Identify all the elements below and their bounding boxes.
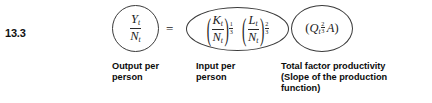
- close-paren-icon: ): [334, 21, 338, 35]
- input-per-person-expression: ( Kt Nt ) 1 3 ( Lt Nt ) 2 3: [206, 14, 269, 45]
- fraction-y-over-n: Yt Nt: [129, 13, 142, 44]
- variable-k: K: [213, 13, 221, 27]
- caption-input-per-person: Input per person: [196, 61, 274, 83]
- total-factor-productivity-oval: (Qt23A): [291, 5, 353, 52]
- variable-n-subscript: t: [256, 36, 258, 45]
- output-per-person-oval: Yt Nt: [112, 5, 159, 52]
- fraction-denominator: Nt: [247, 30, 260, 45]
- capital-per-person-factor: ( Kt Nt ) 1 3: [206, 14, 233, 45]
- variable-n: N: [213, 30, 221, 44]
- tfp-expression: (Qt23A): [305, 22, 338, 36]
- output-per-person-expression: Yt Nt: [129, 13, 142, 44]
- exponent-denominator: 3: [229, 29, 233, 35]
- variable-l: L: [249, 13, 256, 27]
- input-per-person-oval: ( Kt Nt ) 1 3 ( Lt Nt ) 2 3: [186, 7, 289, 51]
- exponent-two-thirds: 2 3: [265, 21, 269, 35]
- fraction-denominator: Nt: [212, 30, 225, 45]
- variable-l-subscript: t: [256, 19, 258, 28]
- exponent-denominator: 3: [265, 29, 269, 35]
- exponent-two-thirds: 23: [321, 21, 325, 35]
- variable-n: N: [130, 29, 138, 43]
- variable-n-subscript: t: [139, 35, 141, 44]
- exponent-one-third: 1 3: [229, 21, 233, 35]
- variable-n: N: [248, 30, 256, 44]
- labor-per-person-factor: ( Lt Nt ) 2 3: [242, 14, 269, 45]
- fraction-numerator: Lt: [248, 14, 259, 30]
- fraction-k-over-n: Kt Nt: [212, 14, 225, 45]
- fraction-numerator: Yt: [130, 13, 141, 29]
- exponent-denominator: 3: [321, 28, 325, 34]
- variable-n-subscript: t: [221, 36, 223, 45]
- variable-k-subscript: t: [221, 19, 223, 28]
- caption-total-factor-productivity: Total factor productivity (Slope of the …: [281, 61, 431, 95]
- open-paren-icon: (: [242, 14, 247, 45]
- fraction-l-over-n: Lt Nt: [247, 14, 260, 45]
- open-paren-icon: (: [206, 14, 211, 45]
- fraction-denominator: Nt: [129, 29, 142, 44]
- variable-y: Y: [131, 12, 138, 26]
- caption-output-per-person: Output per person: [112, 61, 192, 83]
- variable-y-subscript: t: [138, 18, 140, 27]
- equals-sign: =: [166, 21, 173, 37]
- fraction-numerator: Kt: [212, 14, 225, 30]
- equation-number: 13.3: [5, 27, 26, 39]
- variable-q: Q: [310, 21, 319, 35]
